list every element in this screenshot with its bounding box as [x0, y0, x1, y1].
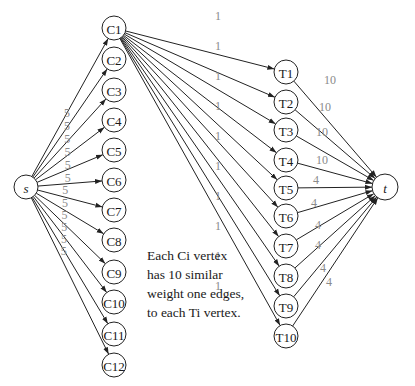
edge-s-to-c9 — [35, 195, 106, 263]
edge-s-to-c7 — [38, 190, 103, 207]
node-c7: C7 — [102, 198, 126, 222]
weight-t1-t: 10 — [324, 73, 336, 87]
weight-s-c2: 5 — [64, 119, 70, 133]
node-t2-label: T2 — [279, 96, 293, 111]
node-c2: C2 — [102, 47, 126, 71]
weight-t10-t: 4 — [326, 275, 332, 289]
weight-c1-t5: 1 — [215, 129, 221, 143]
weight-t5-t: 4 — [313, 173, 319, 187]
weight-c1-t7: 1 — [215, 189, 221, 203]
weight-s-c12: 5 — [61, 244, 67, 258]
weight-c1-t4: 1 — [215, 99, 221, 113]
node-c1-label: C1 — [106, 22, 121, 37]
node-t4: T4 — [274, 148, 298, 172]
flow-network-diagram: 555555555555111111111110101010444444 stC… — [0, 0, 415, 386]
node-sink: t — [372, 174, 398, 200]
node-t10-label: T10 — [276, 330, 297, 345]
edge-c1-to-t8 — [121, 38, 279, 266]
node-c3-label: C3 — [106, 84, 121, 99]
note-line-4: to each Ti vertex. — [147, 303, 297, 322]
node-c5-label: C5 — [106, 144, 121, 159]
node-c10-label: C10 — [103, 296, 125, 311]
node-c10: C10 — [102, 290, 126, 314]
note-line-1: Each Ci vertex — [147, 246, 297, 265]
edge-t8-to-t — [295, 196, 375, 268]
edge-c1-to-t7 — [121, 37, 278, 236]
weight-c1-t1: 1 — [215, 9, 221, 23]
weight-t8-t: 4 — [315, 238, 321, 252]
node-t3: T3 — [274, 118, 298, 142]
node-c12-label: C12 — [103, 359, 125, 374]
node-c7-label: C7 — [106, 204, 122, 219]
edge-t2-to-t — [295, 110, 375, 179]
node-c6: C6 — [102, 168, 126, 192]
edge-c1-to-t4 — [124, 35, 277, 152]
weight-t6-t: 4 — [311, 196, 317, 210]
edge-c1-to-t5 — [123, 36, 277, 180]
edge-t5-to-t — [298, 187, 372, 188]
edge-c1-to-t1 — [126, 31, 275, 69]
weight-t2-t: 10 — [319, 100, 331, 114]
node-t2: T2 — [274, 90, 298, 114]
node-c2-label: C2 — [106, 53, 121, 68]
weight-t4-t: 10 — [316, 153, 328, 167]
node-c5: C5 — [102, 138, 126, 162]
node-t1: T1 — [274, 60, 298, 84]
node-c9-label: C9 — [106, 266, 121, 281]
node-c1: C1 — [102, 16, 126, 40]
edge-t9-to-t — [294, 197, 377, 297]
node-c3: C3 — [102, 78, 126, 102]
node-c12: C12 — [102, 353, 126, 377]
node-t1-label: T1 — [279, 66, 293, 81]
weight-c1-t3: 1 — [215, 69, 221, 83]
edge-s-to-c10 — [33, 197, 106, 293]
node-t4-label: T4 — [279, 154, 294, 169]
edge-s-to-c12 — [31, 198, 108, 354]
note-line-3: weight one edges, — [147, 284, 297, 303]
weight-t3-t: 10 — [316, 125, 328, 139]
node-sink-label: t — [383, 181, 387, 196]
node-t3-label: T3 — [279, 124, 293, 139]
node-c9: C9 — [102, 260, 126, 284]
annotation-note: Each Ci vertex has 10 similar weight one… — [147, 246, 297, 322]
weight-s-c4: 5 — [64, 145, 70, 159]
node-c11-label: C11 — [103, 328, 124, 343]
node-source-label: s — [23, 181, 28, 196]
node-c8-label: C8 — [106, 234, 121, 249]
edge-s-to-c11 — [32, 197, 108, 323]
nodes: stC1C2C3C4C5C6C7C8C9C10C11C12T1T2T3T4T5T… — [14, 16, 398, 377]
note-line-2: has 10 similar — [147, 265, 297, 284]
node-t5-label: T5 — [279, 182, 293, 197]
node-source: s — [14, 175, 38, 199]
node-c6-label: C6 — [106, 174, 122, 189]
node-c8: C8 — [102, 228, 126, 252]
weight-t9-t: 4 — [320, 261, 326, 275]
node-t10: T10 — [274, 324, 298, 348]
weight-t7-t: 4 — [315, 218, 321, 232]
weight-c1-t6: 1 — [215, 159, 221, 173]
edge-t1-to-t — [294, 81, 377, 177]
node-c11: C11 — [102, 322, 126, 346]
weight-s-c1: 5 — [64, 106, 70, 120]
node-t5: T5 — [274, 176, 298, 200]
node-c4-label: C4 — [106, 114, 122, 129]
weight-c1-t8: 1 — [215, 219, 221, 233]
edge-c1-to-t3 — [124, 34, 275, 124]
node-c4: C4 — [102, 108, 126, 132]
edge-t7-to-t — [296, 194, 374, 240]
node-t6: T6 — [274, 204, 298, 228]
weight-s-c5: 5 — [65, 158, 71, 172]
node-t6-label: T6 — [279, 210, 294, 225]
weight-c1-t2: 1 — [215, 39, 221, 53]
